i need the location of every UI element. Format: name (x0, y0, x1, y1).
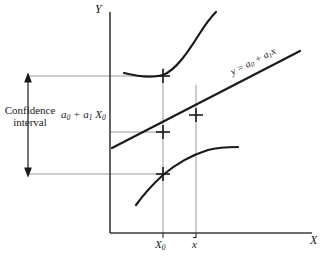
tick-label-x0-base: X (155, 238, 162, 250)
marker-point-estimate (156, 125, 170, 139)
marker-xbar-on-line (189, 108, 203, 122)
tick-label-xbar-base: x (192, 238, 197, 250)
ci-arrow-head-bottom (25, 168, 31, 176)
confidence-interval-line2: interval (13, 116, 47, 128)
confidence-interval-label: Confidenceinterval (2, 104, 58, 129)
figure-canvas (0, 0, 323, 259)
ci-arrow-head-top (25, 74, 31, 82)
y-axis-label: Y (95, 3, 102, 16)
marker-upper-limit (156, 69, 170, 83)
point-estimate-x0: X (95, 108, 102, 120)
tick-label-xbar: x (192, 238, 197, 250)
tick-label-x0: X0 (155, 238, 165, 252)
point-estimate-a1-subscript: 1 (89, 113, 93, 122)
upper-confidence-band (124, 12, 216, 77)
point-estimate-a0-subscript: 0 (67, 113, 71, 122)
point-estimate-plus: + (73, 108, 80, 120)
regression-confidence-interval-figure: Y X X0 x Confidenceinterval a0 + a1 X0 y… (0, 0, 323, 259)
point-estimate-x0-subscript: 0 (102, 113, 106, 122)
regression-line (112, 51, 300, 148)
lower-confidence-band (136, 147, 238, 205)
guide-lines (28, 68, 196, 233)
x-axis-label: X (310, 234, 317, 247)
point-estimate-label: a0 + a1 X0 (61, 108, 106, 122)
confidence-interval-line1: Confidence (5, 104, 56, 116)
tick-label-x0-subscript: 0 (162, 243, 166, 252)
